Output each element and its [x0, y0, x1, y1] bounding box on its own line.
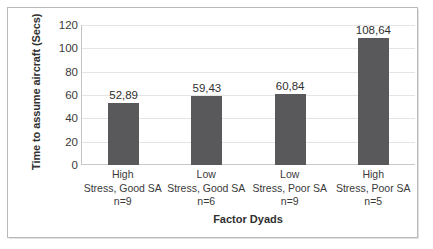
- x-category: High Stress, Poor SA n=5: [332, 168, 416, 209]
- bar-series: 52,89 59,43 60,84 108,64: [82, 25, 415, 165]
- y-tick-label: 20: [46, 136, 78, 148]
- bar-slot: 108,64: [332, 25, 415, 165]
- bar[interactable]: [191, 96, 222, 165]
- y-tick-label: 120: [46, 19, 78, 31]
- x-category-line2: Stress, Poor SA: [248, 182, 332, 196]
- x-category-sample-size: n=9: [248, 195, 332, 209]
- x-category-line2: Stress, Poor SA: [332, 182, 416, 196]
- bar-slot: 52,89: [82, 25, 165, 165]
- y-tick-label: 0: [46, 159, 78, 171]
- bar-slot: 60,84: [249, 25, 332, 165]
- x-category: Low Stress, Poor SA n=9: [248, 168, 332, 209]
- bar-value-label: 108,64: [356, 24, 391, 36]
- x-axis-title: Factor Dyads: [81, 213, 415, 225]
- y-tick-label: 60: [46, 89, 78, 101]
- x-category-line1: Low: [248, 168, 332, 182]
- plot-area: 52,89 59,43 60,84 108,64: [81, 25, 415, 165]
- y-axis-tick-labels: 120 100 80 60 40 20 0: [46, 25, 78, 165]
- bar-value-label: 60,84: [276, 80, 305, 92]
- bar-value-label: 59,43: [192, 82, 221, 94]
- bar[interactable]: [108, 103, 139, 165]
- y-tick-label: 80: [46, 66, 78, 78]
- bar-slot: 59,43: [165, 25, 248, 165]
- y-tick-label: 40: [46, 112, 78, 124]
- x-category: Low Stress, Good SA n=6: [165, 168, 249, 209]
- x-category-line1: High: [81, 168, 165, 182]
- x-category-sample-size: n=5: [332, 195, 416, 209]
- x-category-line1: High: [332, 168, 416, 182]
- chart-container: Time to assume aircraft (Secs) 120 100 8…: [7, 7, 418, 238]
- bar[interactable]: [275, 94, 306, 165]
- bar[interactable]: [358, 38, 389, 165]
- x-category-line1: Low: [165, 168, 249, 182]
- x-category-line2: Stress, Good SA: [81, 182, 165, 196]
- x-category-sample-size: n=9: [81, 195, 165, 209]
- x-category: High Stress, Good SA n=9: [81, 168, 165, 209]
- y-axis-title: Time to assume aircraft (Secs): [30, 20, 42, 170]
- x-axis-category-labels: High Stress, Good SA n=9 Low Stress, Goo…: [81, 168, 415, 209]
- x-category-line2: Stress, Good SA: [165, 182, 249, 196]
- x-category-sample-size: n=6: [165, 195, 249, 209]
- bar-value-label: 52,89: [109, 89, 138, 101]
- y-tick-label: 100: [46, 42, 78, 54]
